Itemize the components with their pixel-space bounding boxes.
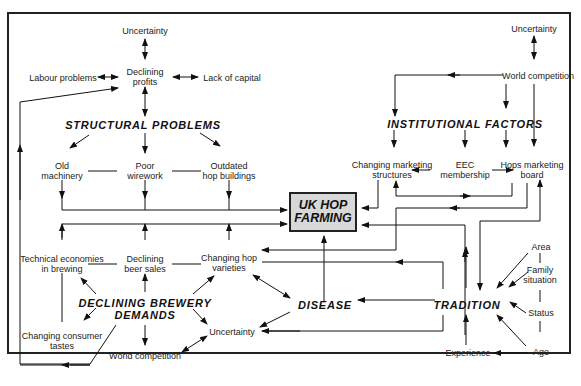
- node-status: Status: [528, 308, 554, 318]
- node-declining-profits-line1: Declining: [126, 67, 163, 77]
- node-beer-sales-line1: Declining: [124, 254, 166, 264]
- node-world-competition-bottom: World competition: [109, 351, 181, 361]
- center-uk-hop-farming: UK HOP FARMING: [289, 192, 357, 232]
- group-structural-problems: STRUCTURAL PROBLEMS: [65, 119, 221, 131]
- node-old-machinery: Old machinery: [41, 161, 83, 181]
- group-disease: DISEASE: [298, 299, 352, 311]
- node-technical-economies: Technical economies in brewing: [20, 254, 104, 274]
- group-brewery-line2: DEMANDS: [78, 309, 211, 321]
- group-institutional-factors: INSTITUTIONAL FACTORS: [387, 118, 543, 130]
- node-uncertainty-bottom: Uncertainty: [209, 327, 255, 337]
- node-poor-wirework-line1: Poor: [127, 161, 163, 171]
- group-declining-brewery-demands: DECLINING BREWERY DEMANDS: [78, 297, 211, 321]
- node-eec-line2: membership: [440, 170, 490, 180]
- node-eec-membership: EEC membership: [440, 160, 490, 180]
- node-declining-profits: Declining profits: [126, 67, 163, 87]
- node-technical-line2: in brewing: [20, 264, 104, 274]
- node-world-competition-top: World competition: [502, 71, 574, 81]
- node-labour-problems: Labour problems: [29, 73, 97, 83]
- node-family-situation: Family situation: [523, 265, 557, 285]
- group-brewery-line1: DECLINING BREWERY: [78, 297, 211, 309]
- node-changing-hop-varieties: Changing hop varieties: [201, 253, 257, 273]
- node-hops-marketing-board: Hops marketing board: [500, 160, 563, 180]
- node-hops-board-line1: Hops marketing: [500, 160, 563, 170]
- node-age: Age: [533, 347, 549, 357]
- node-old-machinery-line1: Old: [41, 161, 83, 171]
- node-family-line2: situation: [523, 275, 557, 285]
- node-uncertainty-top-left: Uncertainty: [122, 26, 168, 36]
- node-beer-sales-line2: beer sales: [124, 264, 166, 274]
- node-declining-profits-line2: profits: [126, 77, 163, 87]
- node-poor-wirework-line2: wirework: [127, 171, 163, 181]
- node-changing-marketing-structures: Changing marketing structures: [352, 160, 433, 180]
- node-technical-line1: Technical economies: [20, 254, 104, 264]
- node-changing-marketing-line2: structures: [352, 170, 433, 180]
- node-eec-line1: EEC: [440, 160, 490, 170]
- node-hop-varieties-line2: varieties: [201, 263, 257, 273]
- node-hops-board-line2: board: [500, 170, 563, 180]
- node-lack-of-capital: Lack of capital: [203, 73, 261, 83]
- center-line2: FARMING: [294, 212, 352, 225]
- node-consumer-line1: Changing consumer: [22, 331, 103, 341]
- group-tradition: TRADITION: [433, 299, 500, 311]
- node-uncertainty-top-right: Uncertainty: [511, 24, 557, 34]
- node-outdated-line2: hop buildings: [202, 171, 255, 181]
- node-consumer-line2: tastes: [22, 341, 103, 351]
- node-outdated-line1: Outdated: [202, 161, 255, 171]
- node-changing-consumer-tastes: Changing consumer tastes: [22, 331, 103, 351]
- node-experience: Experience: [445, 348, 490, 358]
- node-declining-beer-sales: Declining beer sales: [124, 254, 166, 274]
- node-old-machinery-line2: machinery: [41, 171, 83, 181]
- node-outdated-hop-buildings: Outdated hop buildings: [202, 161, 255, 181]
- node-hop-varieties-line1: Changing hop: [201, 253, 257, 263]
- node-changing-marketing-line1: Changing marketing: [352, 160, 433, 170]
- node-area: Area: [531, 242, 550, 252]
- node-family-line1: Family: [523, 265, 557, 275]
- node-poor-wirework: Poor wirework: [127, 161, 163, 181]
